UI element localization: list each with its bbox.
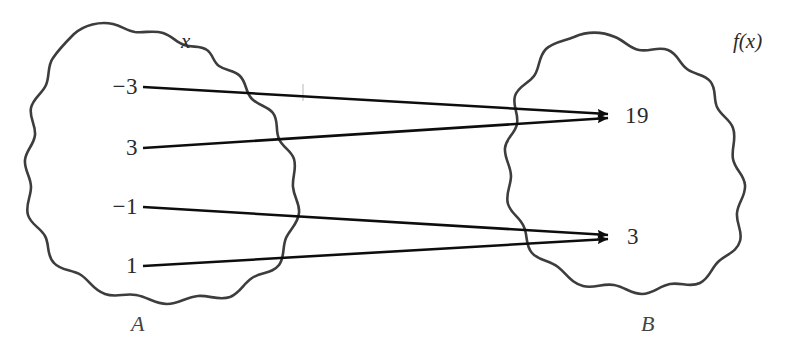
domain-element-3: 3 <box>126 136 138 159</box>
mapping-arrow-3-to-19 <box>143 118 608 148</box>
domain-element-1: 1 <box>126 254 138 277</box>
set-b-name-label: B <box>641 313 654 335</box>
codomain-element-19: 19 <box>625 104 649 127</box>
set-a-name-label: A <box>131 313 144 335</box>
domain-element-neg1: −1 <box>113 195 138 218</box>
set-b-blob-outline <box>505 33 745 294</box>
codomain-variable-label: f(x) <box>733 31 762 52</box>
mapping-arrow-neg1-to-3 <box>143 207 608 235</box>
set-a-blob-outline <box>25 23 299 304</box>
mapping-arrow-1-to-3 <box>143 239 608 266</box>
function-mapping-diagram: x f(x) −3 3 −1 1 19 3 A B <box>0 0 786 360</box>
codomain-element-3: 3 <box>627 225 639 248</box>
domain-variable-label: x <box>181 31 190 52</box>
diagram-canvas <box>0 0 786 360</box>
mapping-arrow-neg3-to-19 <box>143 87 608 114</box>
domain-element-neg3: −3 <box>113 75 138 98</box>
